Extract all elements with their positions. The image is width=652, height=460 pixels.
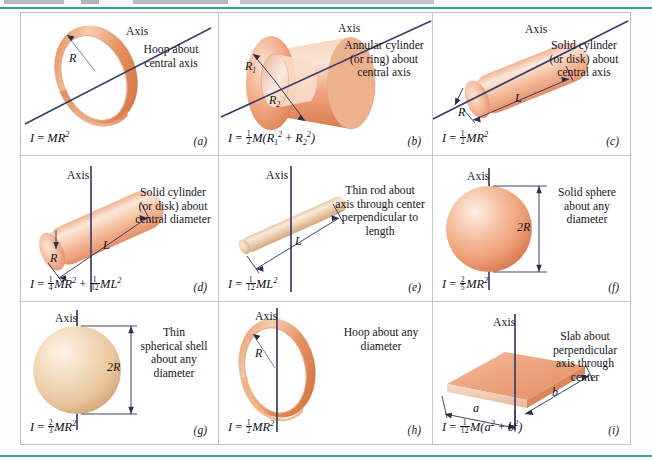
panel-d-dim-R: R (50, 251, 57, 266)
panel-c-dim-R: R (458, 105, 465, 120)
panel-a-dim-R: R (69, 51, 76, 66)
panel-c-caption: Solid cylinder (or disk) about central a… (543, 39, 625, 80)
panel-d: Axis Solid cylinder (or disk) about cent… (21, 156, 219, 302)
panel-d-formula: I = 14MR2 + 112ML2 (30, 276, 121, 292)
panel-h-caption: Hoop about any diameter (333, 326, 429, 353)
panel-a-caption: Hoop about central axis (129, 43, 213, 70)
panel-g-caption: Thin spherical shell about any diameter (133, 326, 215, 380)
panel-i: Axis Slab about perpendicular axis throu… (433, 302, 630, 444)
header-rule (0, 7, 652, 9)
panel-h-formula: I = 12MR2 (228, 419, 274, 435)
panel-a-axis-label: Axis (126, 25, 149, 37)
panel-d-dim-L: L (103, 238, 110, 253)
panel-c-axis-label: Axis (525, 23, 548, 35)
panel-b: Axis Annular cylinder (or ring) about ce… (219, 13, 433, 156)
panel-g-letter: (g) (194, 424, 207, 436)
panel-b-axis-label: Axis (338, 22, 361, 34)
panel-a: Axis Hoop about central axis R I = MR2 (… (21, 13, 219, 156)
panel-a-formula: I = MR2 (30, 131, 69, 146)
table-header-band (0, 0, 652, 9)
panel-d-caption: Solid cylinder (or disk) about central d… (131, 186, 215, 227)
table-frame: Axis Hoop about central axis R I = MR2 (… (20, 12, 631, 445)
figure-page: Axis Hoop about central axis R I = MR2 (… (0, 0, 652, 460)
panel-e-formula: I = 112ML2 (228, 276, 277, 292)
panel-c-dim-L: L (515, 91, 522, 106)
panel-b-formula: I = 12M(R12 + R22) (228, 130, 315, 146)
panel-i-axis-label: Axis (493, 316, 516, 328)
panel-f-formula: I = 25MR2 (442, 276, 488, 292)
panel-i-formula: I = 112M(a2 + b2) (442, 419, 522, 435)
panel-i-dim-b: b (552, 385, 558, 400)
panel-c-formula: I = 12MR2 (442, 130, 488, 146)
table-header-text-cropped (4, 0, 434, 4)
panel-i-letter: (i) (608, 424, 619, 436)
footer-rule (0, 455, 652, 457)
panel-e-axis-label: Axis (266, 169, 289, 181)
panel-g-dim-2R: 2R (107, 360, 120, 375)
panel-c: Axis Solid cylinder (or disk) about cent… (433, 13, 630, 156)
panel-e: Axis Thin rod about axis through center … (219, 156, 433, 302)
panel-b-letter: (b) (408, 135, 421, 147)
panel-g-formula: I = 23MR2 (30, 419, 76, 435)
panel-b-caption: Annular cylinder (or ring) about central… (337, 39, 431, 80)
panel-f-letter: (f) (608, 281, 619, 293)
panel-a-letter: (a) (194, 135, 207, 147)
panel-d-axis-label: Axis (67, 169, 90, 181)
panel-h: Axis Hoop about any diameter R I = 12MR2… (219, 302, 433, 444)
panel-f-axis-label: Axis (467, 170, 490, 182)
panel-h-axis-label: Axis (255, 310, 278, 322)
panel-f: Axis Solid sphere about any diameter 2R … (433, 156, 630, 302)
panel-e-dim-L: L (295, 234, 302, 249)
panel-b-dim-R2: R2 (269, 93, 280, 108)
footer-band (0, 452, 652, 460)
panel-e-letter: (e) (408, 281, 421, 293)
panel-g: Axis Thin spherical shell about any diam… (21, 302, 219, 444)
panel-e-caption: Thin rod about axis through center perpe… (331, 184, 429, 238)
panel-h-letter: (h) (408, 424, 421, 436)
panel-f-caption: Solid sphere about any diameter (549, 186, 625, 227)
panel-i-caption: Slab about perpendicular axis through ce… (545, 330, 625, 384)
panel-h-dim-R: R (255, 346, 262, 361)
panel-c-letter: (c) (606, 135, 619, 147)
panel-i-dim-a: a (473, 401, 479, 416)
panel-grid: Axis Hoop about central axis R I = MR2 (… (21, 13, 630, 444)
panel-d-letter: (d) (194, 281, 207, 293)
panel-f-dim-2R: 2R (517, 220, 530, 235)
panel-b-dim-R1: R1 (245, 59, 256, 74)
panel-g-axis-label: Axis (55, 312, 78, 324)
